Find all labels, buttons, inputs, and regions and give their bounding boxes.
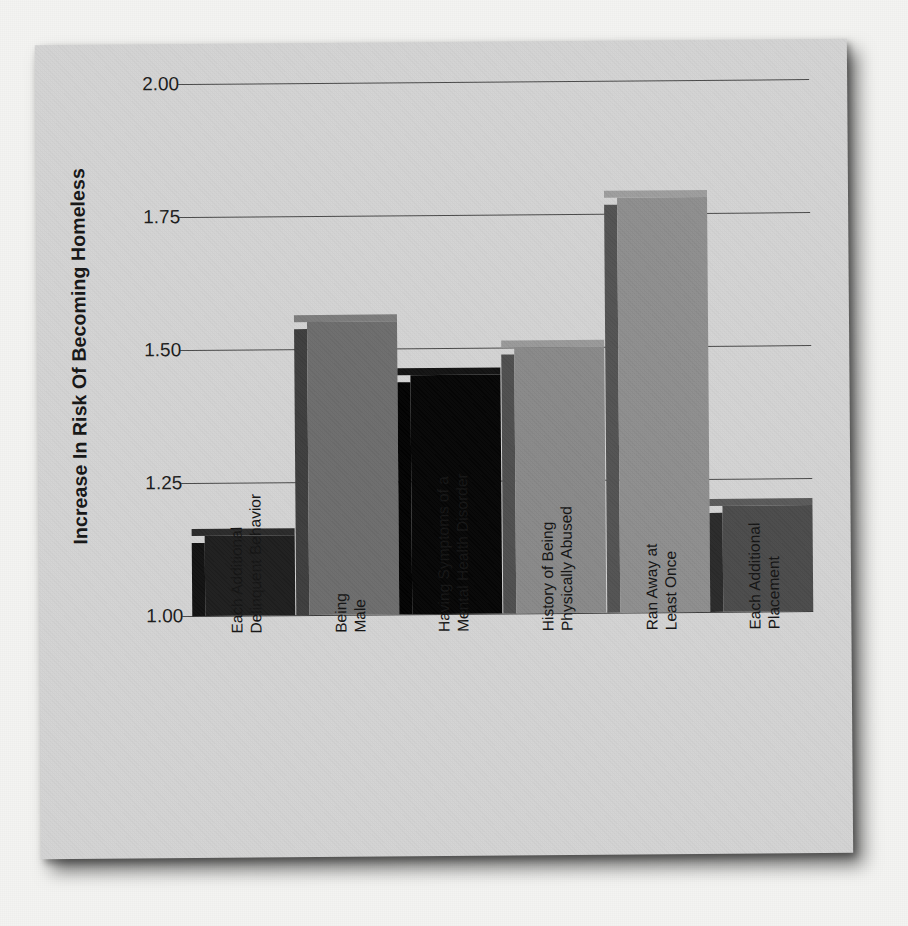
x-label-line: Ran Away at [641, 544, 661, 631]
x-axis-label-1: Each AdditionalDelinquent Behavior [226, 494, 265, 634]
tick-mark [179, 217, 189, 218]
gridline-1.75 [188, 212, 810, 218]
x-label-line: Having Symptoms of a [433, 473, 453, 632]
bar-2 [307, 321, 399, 615]
x-axis-label-6: Each AdditionalPlacement [745, 522, 784, 629]
bar-side-face [192, 543, 206, 616]
y-tick-label-1.00: 1.00 [97, 605, 183, 628]
x-axis-label-4: History of BeingPhysically Abused [537, 506, 576, 631]
y-axis-ticks: 1.001.251.501.752.00 [35, 39, 847, 45]
gridlines [35, 39, 847, 45]
tick-mark [181, 483, 191, 484]
y-tick-label-2.00: 2.00 [93, 73, 179, 96]
bars [35, 39, 847, 45]
x-label-line: Being [331, 593, 350, 633]
x-axis-label-5: Ran Away atLeast Once [641, 543, 680, 630]
plot-area: Increase In Risk Of Becoming Homeless 1.… [35, 39, 853, 859]
x-axis-labels: Each AdditionalDelinquent BehaviorBeingM… [35, 39, 847, 45]
bar-front-face [307, 321, 399, 615]
y-axis-label: Increase In Risk Of Becoming Homeless [66, 146, 92, 566]
chart-panel: Increase In Risk Of Becoming Homeless 1.… [35, 39, 853, 859]
screenshot-root: Increase In Risk Of Becoming Homeless 1.… [0, 0, 908, 926]
tick-mark [180, 350, 190, 351]
tick-mark [182, 616, 192, 617]
x-label-line: Delinquent Behavior [245, 494, 265, 634]
x-label-line: Male [350, 593, 369, 633]
x-label-line: Each Additional [226, 494, 246, 634]
x-axis-label-3: Having Symptoms of aMental Health Disord… [433, 473, 472, 632]
x-label-line: Least Once [660, 543, 680, 630]
x-label-line: Mental Health Disorder [452, 473, 472, 632]
x-label-line: Placement [764, 522, 784, 629]
x-label-line: Each Additional [745, 523, 765, 630]
bar-side-face [710, 513, 724, 612]
x-axis-label-2: BeingMale [331, 593, 369, 633]
y-tick-label-1.75: 1.75 [94, 206, 180, 229]
y-tick-label-1.50: 1.50 [95, 339, 181, 362]
x-label-line: Physically Abused [556, 506, 576, 631]
x-label-line: History of Being [537, 506, 557, 631]
gridline-2.00 [187, 79, 809, 85]
y-tick-label-1.25: 1.25 [96, 472, 182, 495]
tick-mark [178, 84, 188, 85]
